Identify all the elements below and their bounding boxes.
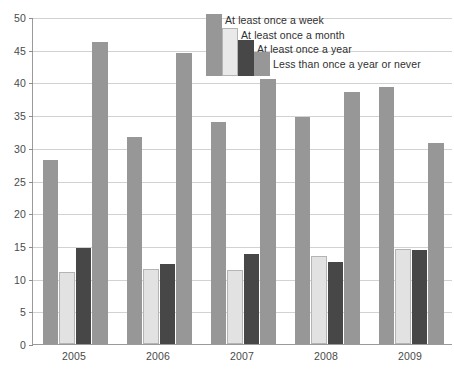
bar (260, 79, 276, 344)
x-axis-label: 2007 (230, 350, 254, 362)
legend-label: At least once a week (225, 14, 324, 26)
bar (211, 122, 227, 344)
bar (244, 254, 260, 344)
legend-label: At least once a year (257, 43, 352, 55)
y-axis-label: 15 (2, 241, 26, 253)
bar-group (33, 18, 117, 344)
bar-group (117, 18, 201, 344)
bar (428, 143, 444, 344)
bar (59, 272, 75, 344)
x-axis-label: 2006 (146, 350, 170, 362)
bar (92, 42, 108, 344)
y-axis-tick (29, 345, 33, 346)
bar (412, 250, 428, 344)
x-axis-label: 2009 (398, 350, 422, 362)
bar (344, 92, 360, 344)
legend-swatch (238, 40, 254, 76)
y-axis-label: 25 (2, 176, 26, 188)
bar (43, 160, 59, 344)
y-axis-label: 50 (2, 12, 26, 24)
bar (160, 264, 176, 344)
legend-swatch (206, 14, 222, 76)
y-axis-label: 10 (2, 274, 26, 286)
bar (176, 53, 192, 344)
bar-chart: At least once a weekAt least once a mont… (0, 0, 454, 372)
y-axis-label: 35 (2, 110, 26, 122)
bar (379, 87, 395, 344)
y-axis-label: 40 (2, 77, 26, 89)
y-axis-label: 30 (2, 143, 26, 155)
bar (76, 248, 92, 344)
legend-swatch (222, 28, 238, 76)
bar (395, 249, 411, 344)
x-axis-label: 2005 (62, 350, 86, 362)
bar (143, 269, 159, 344)
y-axis-label: 0 (2, 339, 26, 351)
bar (328, 262, 344, 344)
x-axis-label: 2008 (314, 350, 338, 362)
bar (311, 256, 327, 344)
legend-swatch (254, 52, 270, 76)
legend-label: At least once a month (241, 29, 345, 41)
bar (127, 137, 143, 344)
y-axis-label: 20 (2, 208, 26, 220)
y-axis-label: 5 (2, 306, 26, 318)
bar (295, 117, 311, 344)
legend-label: Less than once a year or never (273, 58, 421, 70)
bar (227, 270, 243, 344)
y-axis-label: 45 (2, 45, 26, 57)
chart-legend: At least once a weekAt least once a mont… (206, 14, 446, 76)
